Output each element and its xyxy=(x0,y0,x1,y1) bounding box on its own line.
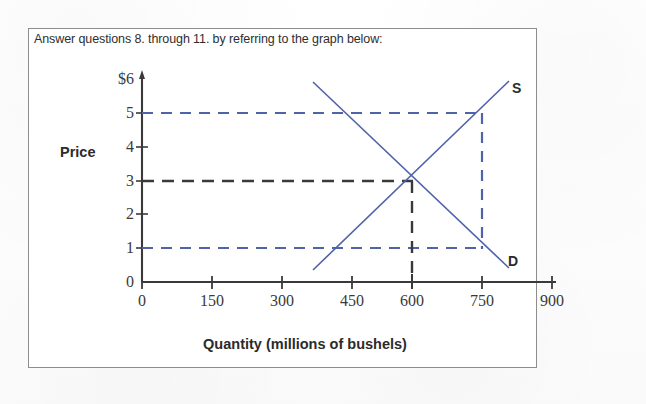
screenshot-canvas: Answer questions 8. through 11. by refer… xyxy=(0,0,646,404)
x-axis xyxy=(142,274,556,289)
y-axis xyxy=(136,70,148,282)
supply-demand-chart xyxy=(0,0,646,404)
